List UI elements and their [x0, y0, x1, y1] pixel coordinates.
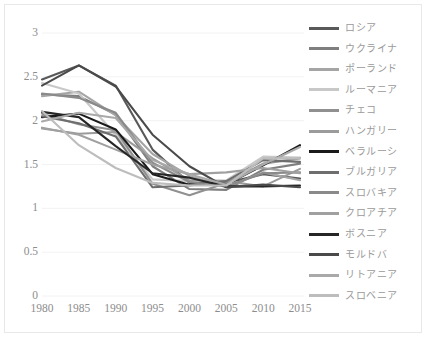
legend-swatch-icon: [309, 150, 339, 153]
legend-item[interactable]: ベラルーシ: [309, 142, 398, 162]
series-line-4: [42, 114, 300, 196]
chart-legend: ロシアウクライナポーランドルーマニアチェコハンガリーベラルーシブルガリアスロバキ…: [309, 18, 423, 318]
legend-swatch-icon: [309, 130, 339, 133]
x-tick-label: 2000: [178, 303, 201, 315]
legend-swatch-icon: [309, 191, 339, 194]
legend-swatch-icon: [309, 109, 339, 112]
legend-swatch-icon: [309, 47, 339, 50]
legend-swatch-icon: [309, 233, 339, 236]
y-axis: 00.511.522.53: [8, 26, 38, 304]
x-tick-label: 2010: [252, 303, 275, 315]
legend-item-label: ポーランド: [345, 64, 398, 74]
legend-item-label: スロベニア: [345, 291, 398, 301]
legend-swatch-icon: [309, 27, 339, 30]
legend-item[interactable]: スロベニア: [309, 286, 398, 306]
legend-swatch-icon: [309, 88, 339, 91]
legend-item-label: ブルガリア: [345, 167, 398, 177]
x-axis: 19801985199019952000200520102015: [42, 303, 304, 323]
legend-item-label: ベラルーシ: [345, 147, 398, 157]
legend-item[interactable]: クロアチア: [309, 203, 398, 223]
legend-item[interactable]: チェコ: [309, 100, 377, 120]
line-chart: 00.511.522.53 19801985199019952000200520…: [0, 0, 426, 337]
legend-item-label: スロバキア: [345, 188, 398, 198]
legend-item[interactable]: ブルガリア: [309, 162, 398, 182]
legend-swatch-icon: [309, 68, 339, 71]
legend-item[interactable]: モルドバ: [309, 245, 387, 265]
legend-item-label: ハンガリー: [345, 126, 398, 136]
x-tick-label: 1980: [31, 303, 54, 315]
legend-item[interactable]: ロシア: [309, 18, 377, 38]
legend-swatch-icon: [309, 274, 339, 277]
legend-item-label: クロアチア: [345, 208, 398, 218]
legend-swatch-icon: [309, 171, 339, 174]
legend-item-label: ルーマニア: [345, 85, 398, 95]
y-tick-label: 1.5: [8, 159, 38, 171]
legend-swatch-icon: [309, 212, 339, 215]
y-tick-label: 2: [8, 115, 38, 127]
legend-item-label: ボスニア: [345, 229, 387, 239]
legend-item-label: ロシア: [345, 23, 377, 33]
y-tick-label: 3: [8, 27, 38, 39]
legend-item[interactable]: ハンガリー: [309, 121, 398, 141]
legend-item[interactable]: リトアニア: [309, 265, 398, 285]
legend-swatch-icon: [309, 253, 339, 256]
legend-item-label: チェコ: [345, 105, 377, 115]
legend-swatch-icon: [309, 294, 339, 297]
legend-item-label: ウクライナ: [345, 44, 398, 54]
y-tick-label: 1: [8, 203, 38, 215]
y-tick-label: 0.5: [8, 246, 38, 258]
x-tick-label: 1995: [141, 303, 164, 315]
legend-item-label: モルドバ: [345, 250, 387, 260]
y-tick-label: 0: [8, 290, 38, 302]
x-tick-label: 1990: [104, 303, 127, 315]
y-tick-label: 2.5: [8, 71, 38, 83]
legend-item[interactable]: ポーランド: [309, 59, 398, 79]
legend-item[interactable]: ボスニア: [309, 224, 387, 244]
legend-item[interactable]: ウクライナ: [309, 39, 398, 59]
x-tick-label: 2005: [215, 303, 238, 315]
x-tick-label: 1985: [67, 303, 90, 315]
legend-item[interactable]: ルーマニア: [309, 80, 398, 100]
legend-item[interactable]: スロバキア: [309, 183, 398, 203]
legend-item-label: リトアニア: [345, 270, 398, 280]
